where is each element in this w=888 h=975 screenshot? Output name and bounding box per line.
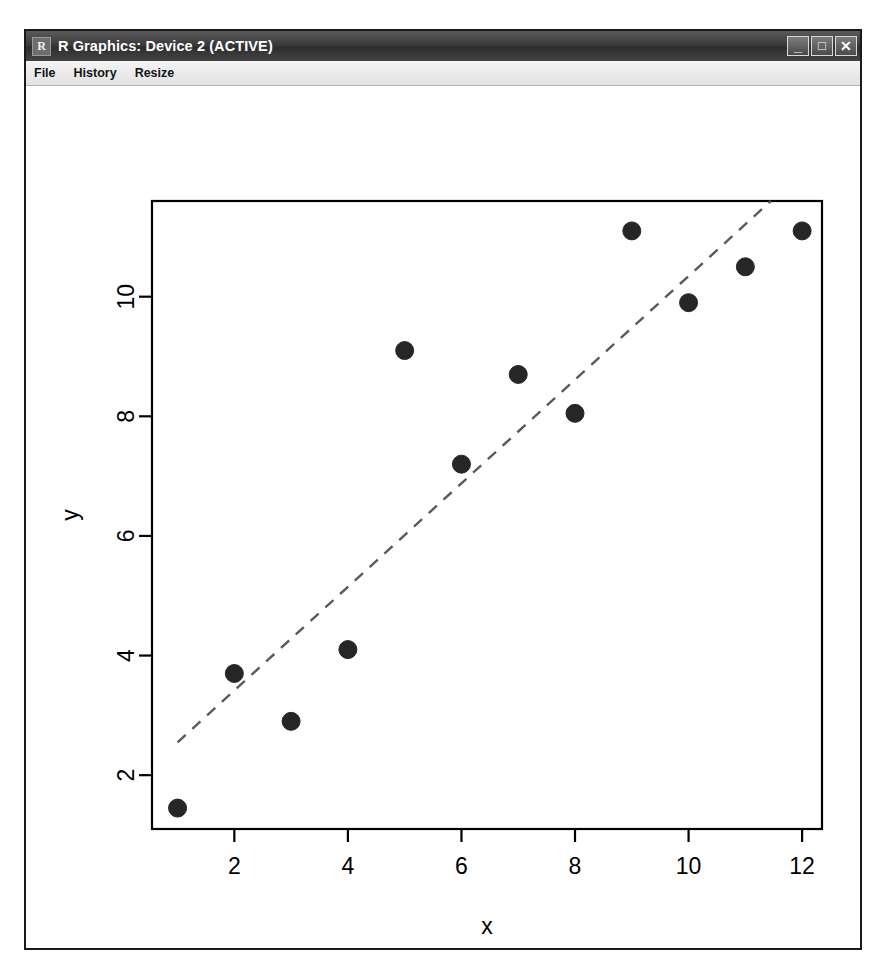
window-title: R Graphics: Device 2 (ACTIVE) <box>58 38 785 54</box>
x-tick-label: 12 <box>789 853 815 879</box>
x-tick-label: 2 <box>228 853 241 879</box>
x-tick-label: 10 <box>676 853 702 879</box>
maximize-button[interactable]: □ <box>811 36 833 56</box>
y-axis-title: y <box>57 509 83 521</box>
data-point <box>623 222 641 240</box>
y-tick-label: 2 <box>113 769 139 782</box>
r-logo-icon: R <box>32 37 51 56</box>
plot-border <box>152 201 822 829</box>
data-point <box>793 222 811 240</box>
x-axis-title: x <box>481 913 493 939</box>
data-point <box>736 258 754 276</box>
data-point <box>169 799 187 817</box>
y-tick-label: 10 <box>113 284 139 310</box>
data-point <box>566 404 584 422</box>
regression-line <box>178 201 771 742</box>
axis-titles: xy <box>57 509 493 939</box>
x-tick-label: 8 <box>569 853 582 879</box>
maximize-icon: □ <box>812 39 832 52</box>
close-button[interactable]: ✕ <box>835 36 857 56</box>
y-tick-label: 8 <box>113 410 139 423</box>
window-titlebar[interactable]: R R Graphics: Device 2 (ACTIVE) _ □ ✕ <box>26 31 860 61</box>
tick-labels: 24681012246810 <box>113 284 815 879</box>
y-tick-label: 6 <box>113 530 139 543</box>
data-point <box>452 455 470 473</box>
scatter-plot: 24681012246810 xy <box>26 86 860 952</box>
x-tick-label: 4 <box>341 853 354 879</box>
minimize-button[interactable]: _ <box>787 36 809 56</box>
axis-ticks <box>139 297 802 842</box>
trend-line <box>178 201 771 742</box>
menu-item-resize[interactable]: Resize <box>135 66 175 80</box>
menu-item-file[interactable]: File <box>34 66 56 80</box>
data-point <box>225 664 243 682</box>
x-tick-label: 6 <box>455 853 468 879</box>
close-icon: ✕ <box>836 39 856 53</box>
graphics-canvas: 24681012246810 xy <box>26 86 860 948</box>
y-tick-label: 4 <box>113 649 139 662</box>
menubar: File History Resize <box>26 61 860 86</box>
menu-item-history[interactable]: History <box>74 66 117 80</box>
plot-box <box>152 201 822 829</box>
minimize-icon: _ <box>788 38 808 53</box>
data-point <box>282 712 300 730</box>
data-point <box>339 641 357 659</box>
screenshot-root: R R Graphics: Device 2 (ACTIVE) _ □ ✕ Fi… <box>0 0 888 975</box>
r-graphics-window: R R Graphics: Device 2 (ACTIVE) _ □ ✕ Fi… <box>24 29 862 950</box>
data-points <box>169 222 812 817</box>
data-point <box>396 342 414 360</box>
data-point <box>680 294 698 312</box>
data-point <box>509 365 527 383</box>
